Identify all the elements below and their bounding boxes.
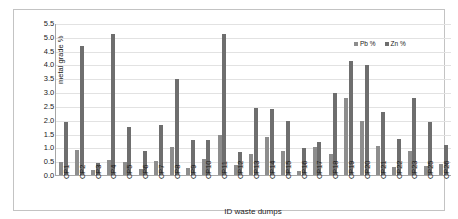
bar-group <box>167 24 183 175</box>
bar-group <box>56 24 72 175</box>
x-axis-tick-label-text: CP26 <box>443 161 451 179</box>
y-axis-tick-label: 1.0 <box>44 145 54 153</box>
bar-group <box>278 24 294 175</box>
bar-group <box>199 24 215 175</box>
bar-group <box>246 24 262 175</box>
bar-zn <box>111 34 115 175</box>
bar-group <box>151 24 167 175</box>
bar-zn <box>365 65 369 175</box>
bar-zn <box>222 34 226 175</box>
y-axis-tick-label: 5.5 <box>44 20 54 28</box>
bar-group <box>119 24 135 175</box>
y-axis-tick-label: 4.5 <box>44 48 54 56</box>
bar-group <box>214 24 230 175</box>
legend-label: Pb % <box>360 41 376 48</box>
y-axis-tick-label: 5.0 <box>44 34 54 42</box>
legend-entry-zn[interactable]: Zn % <box>385 41 406 48</box>
y-axis-tick-label: 2.0 <box>44 117 54 125</box>
chart-frame: 0.00.51.01.52.02.53.03.54.04.55.05.5 met… <box>13 9 445 211</box>
bar-group <box>88 24 104 175</box>
bar-group <box>420 24 436 175</box>
bar-group <box>183 24 199 175</box>
bar-group <box>104 24 120 175</box>
bar-group <box>72 24 88 175</box>
x-axis-tick-labels: CP1CP2CP3CP4CP5CP6CP7CP8CP9CP10CP11CP12C… <box>55 177 451 209</box>
chart-screenshot: 0.00.51.01.52.02.53.03.54.04.55.05.5 met… <box>0 0 458 219</box>
y-axis-tick-label: 4.0 <box>44 62 54 70</box>
bar-group <box>230 24 246 175</box>
bar-group <box>325 24 341 175</box>
bar-zn <box>80 46 84 175</box>
y-axis-tick-label: 3.5 <box>44 76 54 84</box>
bar-group <box>262 24 278 175</box>
bar-group <box>294 24 310 175</box>
y-axis-tick-label: 1.5 <box>44 131 54 139</box>
bar-group <box>309 24 325 175</box>
y-axis-tick-label: 0.5 <box>44 158 54 166</box>
bar-zn <box>349 61 353 175</box>
legend-swatch-icon <box>354 42 358 46</box>
legend-label: Zn % <box>391 41 406 48</box>
x-axis-tick-label: CP26 <box>427 177 458 207</box>
legend-swatch-icon <box>385 42 389 46</box>
chart-legend: Pb %Zn % <box>354 41 406 48</box>
x-axis-title: ID waste dumps <box>55 208 451 216</box>
bar-group <box>436 24 452 175</box>
bar-group <box>135 24 151 175</box>
y-axis-tick-labels: 0.00.51.01.52.02.53.03.54.04.55.05.5 <box>32 24 54 176</box>
bar-group <box>404 24 420 175</box>
y-axis-tick-label: 3.0 <box>44 89 54 97</box>
legend-entry-pb[interactable]: Pb % <box>354 41 376 48</box>
bar-zn <box>175 79 179 175</box>
y-axis-tick-label: 2.5 <box>44 103 54 111</box>
